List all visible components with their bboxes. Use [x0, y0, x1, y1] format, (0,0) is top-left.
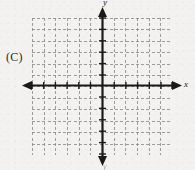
x-axis-arrow-right	[172, 81, 182, 90]
y-axis-label: y	[103, 0, 107, 7]
y-axis-label-bottom: y	[103, 162, 107, 170]
axes-group	[0, 0, 195, 170]
x-axis-arrow-left	[22, 81, 32, 90]
x-axis-label: x	[184, 79, 188, 89]
figure-canvas: (C)	[0, 0, 195, 170]
y-axis-arrow-up	[98, 7, 107, 17]
